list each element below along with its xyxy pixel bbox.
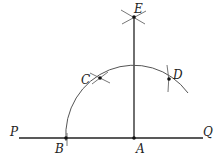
label-q: Q	[203, 125, 213, 139]
point-b	[64, 136, 68, 140]
label-b: B	[54, 142, 64, 156]
label-c: C	[81, 73, 90, 87]
label-e: E	[133, 2, 143, 16]
label-p: P	[9, 125, 19, 139]
point-a	[132, 136, 136, 140]
label-a: A	[135, 142, 145, 156]
point-c	[98, 76, 102, 80]
construction-diagram: P Q A B C D E	[0, 0, 222, 160]
label-d: D	[172, 68, 183, 82]
point-d	[167, 77, 171, 81]
